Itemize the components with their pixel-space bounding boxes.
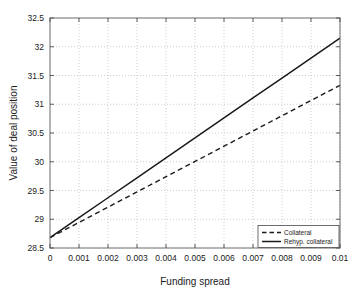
y-tick-label: 29.5: [27, 186, 44, 196]
x-tick-label: 0: [48, 253, 53, 263]
y-tick-label: 28.5: [27, 243, 44, 253]
y-tick-label: 32.5: [27, 13, 44, 23]
y-tick-label: 30: [35, 157, 45, 167]
x-tick-label: 0.005: [184, 253, 206, 263]
y-tick-label: 30.5: [27, 128, 44, 138]
y-tick-label: 31: [35, 99, 45, 109]
x-tick-label: 0.008: [271, 253, 293, 263]
line-chart: 00.0010.0020.0030.0040.0050.0060.0070.00…: [0, 0, 356, 296]
y-tick-label: 32: [35, 42, 45, 52]
x-tick-label: 0.001: [68, 253, 90, 263]
x-tick-label: 0.004: [155, 253, 177, 263]
y-axis-title: Value of deal position: [8, 86, 19, 181]
legend-label-rehyp-collateral: Rehyp. collateral: [284, 238, 333, 246]
x-tick-label: 0.002: [97, 253, 119, 263]
x-tick-label: 0.009: [300, 253, 322, 263]
x-tick-label: 0.007: [242, 253, 264, 263]
y-tick-label: 31.5: [27, 71, 44, 81]
x-tick-label: 0.01: [332, 253, 349, 263]
x-tick-label: 0.003: [126, 253, 148, 263]
x-tick-label: 0.006: [213, 253, 235, 263]
legend[interactable]: Collateral Rehyp. collateral: [258, 226, 339, 248]
x-axis-title: Funding spread: [160, 276, 230, 287]
legend-label-collateral: Collateral: [284, 229, 312, 236]
y-tick-label: 29: [35, 214, 45, 224]
